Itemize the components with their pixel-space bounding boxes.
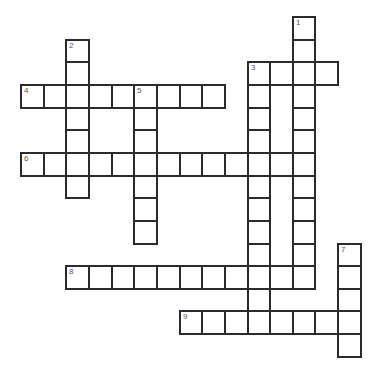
crossword-cell[interactable]: 1 — [292, 16, 316, 41]
crossword-cell[interactable] — [224, 310, 249, 335]
crossword-cell[interactable] — [269, 152, 294, 177]
crossword-cell[interactable] — [65, 175, 90, 199]
crossword-cell[interactable]: 2 — [65, 39, 90, 63]
crossword-cell[interactable] — [292, 310, 316, 335]
crossword-cell[interactable] — [314, 310, 339, 335]
crossword-cell[interactable] — [111, 84, 135, 109]
clue-number: 8 — [69, 267, 73, 276]
crossword-cell[interactable] — [65, 152, 90, 177]
crossword-cell[interactable] — [201, 152, 226, 177]
crossword-cell[interactable] — [337, 265, 362, 290]
crossword-cell[interactable] — [65, 84, 90, 109]
crossword-cell[interactable] — [247, 265, 271, 290]
crossword-cell[interactable] — [247, 129, 271, 154]
crossword-cell[interactable] — [269, 310, 294, 335]
crossword-cell[interactable] — [43, 84, 67, 109]
crossword-cell[interactable] — [247, 175, 271, 199]
crossword-cell[interactable] — [133, 265, 158, 290]
crossword-cell[interactable] — [337, 333, 362, 358]
crossword-cell[interactable]: 5 — [133, 84, 158, 109]
crossword-cell[interactable] — [111, 265, 135, 290]
crossword-cell[interactable] — [156, 265, 181, 290]
clue-number: 6 — [24, 154, 28, 163]
crossword-cell[interactable] — [292, 175, 316, 199]
crossword-cell[interactable]: 9 — [179, 310, 203, 335]
crossword-cell[interactable] — [65, 129, 90, 154]
crossword-cell[interactable] — [133, 107, 158, 131]
crossword-cell[interactable] — [133, 197, 158, 222]
crossword-cell[interactable]: 3 — [247, 61, 271, 86]
crossword-cell[interactable] — [247, 152, 271, 177]
clue-number: 2 — [69, 41, 73, 50]
crossword-cell[interactable] — [133, 175, 158, 199]
crossword-cell[interactable] — [201, 84, 226, 109]
crossword-cell[interactable] — [88, 84, 113, 109]
crossword-cell[interactable] — [292, 220, 316, 245]
crossword-cell[interactable] — [247, 84, 271, 109]
crossword-cell[interactable] — [269, 61, 294, 86]
crossword-cell[interactable] — [133, 129, 158, 154]
clue-number: 5 — [137, 86, 141, 95]
crossword-cell[interactable] — [201, 265, 226, 290]
crossword-cell[interactable] — [43, 152, 67, 177]
crossword-cell[interactable]: 6 — [20, 152, 45, 177]
crossword-cell[interactable] — [292, 197, 316, 222]
clue-number: 9 — [183, 312, 187, 321]
crossword-cell[interactable] — [133, 152, 158, 177]
crossword-cell[interactable] — [88, 265, 113, 290]
crossword-cell[interactable] — [247, 310, 271, 335]
crossword-cell[interactable] — [179, 265, 203, 290]
clue-number: 3 — [251, 63, 255, 72]
crossword-cell[interactable]: 8 — [65, 265, 90, 290]
crossword-cell[interactable] — [88, 152, 113, 177]
crossword-cell[interactable] — [224, 265, 249, 290]
clue-number: 1 — [296, 18, 300, 27]
crossword-cell[interactable] — [224, 152, 249, 177]
crossword-cell[interactable] — [65, 61, 90, 86]
crossword-cell[interactable] — [292, 243, 316, 267]
crossword-cell[interactable] — [314, 61, 339, 86]
clue-number: 4 — [24, 86, 28, 95]
crossword-cell[interactable] — [292, 129, 316, 154]
crossword-cell[interactable] — [247, 107, 271, 131]
crossword-cell[interactable] — [292, 107, 316, 131]
crossword-grid: 123456789 — [0, 0, 368, 382]
crossword-cell[interactable] — [179, 152, 203, 177]
crossword-cell[interactable] — [292, 152, 316, 177]
crossword-cell[interactable] — [247, 243, 271, 267]
crossword-cell[interactable] — [156, 152, 181, 177]
crossword-cell[interactable] — [292, 265, 316, 290]
crossword-cell[interactable]: 7 — [337, 243, 362, 267]
crossword-cell[interactable] — [292, 84, 316, 109]
crossword-cell[interactable] — [156, 84, 181, 109]
crossword-cell[interactable] — [292, 39, 316, 63]
crossword-cell[interactable] — [133, 220, 158, 245]
crossword-cell[interactable] — [247, 288, 271, 312]
crossword-cell[interactable]: 4 — [20, 84, 45, 109]
crossword-cell[interactable] — [179, 84, 203, 109]
crossword-cell[interactable] — [292, 61, 316, 86]
crossword-cell[interactable] — [201, 310, 226, 335]
clue-number: 7 — [341, 245, 345, 254]
crossword-cell[interactable] — [247, 220, 271, 245]
crossword-cell[interactable] — [337, 288, 362, 312]
crossword-cell[interactable] — [65, 107, 90, 131]
crossword-cell[interactable] — [337, 310, 362, 335]
crossword-cell[interactable] — [247, 197, 271, 222]
crossword-cell[interactable] — [269, 265, 294, 290]
crossword-cell[interactable] — [111, 152, 135, 177]
